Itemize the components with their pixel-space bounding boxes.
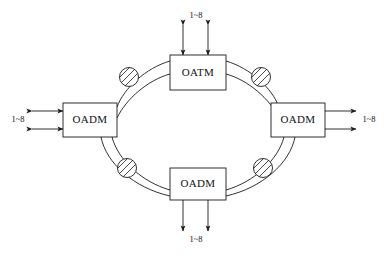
hatched-circle-icon (252, 68, 271, 87)
node-left-oadm[interactable]: OADM (63, 103, 117, 137)
hatched-circle-icon (120, 68, 139, 87)
node-right-oadm[interactable]: OADM (271, 103, 325, 137)
node-label-left: OADM (73, 113, 108, 125)
node-group: OATM OADM OADM OADM (63, 55, 325, 200)
ring-network-diagram: OATM OADM OADM OADM 1~8 1~8 1~8 1~8 (0, 0, 387, 258)
tributary-label-bottom: 1~8 (189, 234, 202, 244)
amplifier-upper-right (248, 61, 274, 89)
amplifier-lower-left (114, 152, 140, 180)
amplifier-lower-right (250, 152, 276, 180)
node-label-bottom: OADM (181, 177, 216, 189)
node-label-top: OATM (182, 66, 214, 78)
tributary-label-right: 1~8 (362, 114, 375, 124)
node-top-oatm[interactable]: OATM (170, 55, 226, 90)
tributary-label-top: 1~8 (189, 10, 202, 20)
ring-segment-outer-upper-right (226, 61, 279, 107)
hatched-circle-icon (254, 159, 273, 178)
node-bottom-oadm[interactable]: OADM (170, 168, 226, 200)
node-label-right: OADM (281, 113, 316, 125)
hatched-circle-icon (118, 159, 137, 178)
tributary-label-left: 1~8 (11, 114, 24, 124)
network-diagram-canvas: OATM OADM OADM OADM 1~8 1~8 1~8 1~8 (0, 0, 387, 258)
amplifier-upper-left (116, 61, 142, 89)
